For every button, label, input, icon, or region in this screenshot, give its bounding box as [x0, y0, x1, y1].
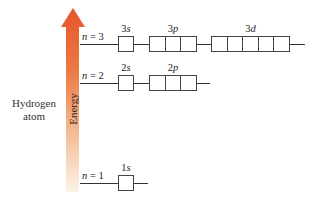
- orbital-box-3d: [211, 36, 290, 52]
- level-label-n2: n = 2: [82, 70, 104, 81]
- level-line-n1: [80, 183, 148, 184]
- level-label-n1: n = 1: [82, 170, 104, 181]
- orbital-label-3d: 3d: [211, 23, 290, 34]
- orbital-box-3p: [149, 36, 197, 52]
- orbital-label-2s: 2s: [118, 62, 134, 73]
- orbital-label-3s: 3s: [118, 23, 134, 34]
- orbital-label-1s: 1s: [118, 162, 134, 173]
- energy-axis-label: Energy: [67, 89, 79, 129]
- orbital-label-2p: 2p: [149, 62, 197, 73]
- orbital-box-2s: [118, 75, 134, 91]
- orbital-label-3p: 3p: [149, 23, 197, 34]
- orbital-box-1s: [118, 175, 134, 191]
- orbital-box-2p: [149, 75, 197, 91]
- orbital-box-3s: [118, 36, 134, 52]
- level-label-n3: n = 3: [82, 31, 104, 42]
